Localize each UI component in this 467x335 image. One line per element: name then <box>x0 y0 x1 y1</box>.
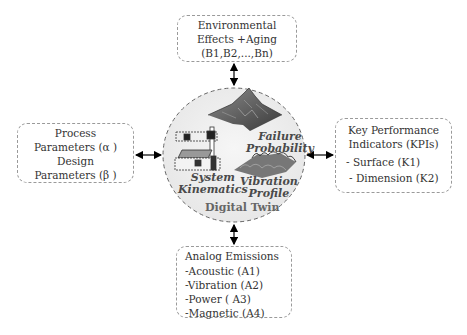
kpi-item: - Dimension (K2) <box>336 171 451 185</box>
box-text: Process <box>18 126 133 140</box>
emission-item: -Power ( A3) <box>185 292 291 306</box>
box-text: Parameters (β ) <box>18 168 133 182</box>
kpi-box: Key Performance Indicators (KPIs) - Surf… <box>335 118 452 193</box>
emission-item: -Acoustic (A1) <box>185 264 291 278</box>
kpi-item: - Surface (K1) <box>336 155 451 169</box>
failure-probability-label: Failure Probability <box>246 131 314 155</box>
box-text: (B1,B2,...,Bn) <box>178 46 296 60</box>
box-text: Parameters (α ) <box>18 140 133 154</box>
environmental-effects-box: Environmental Effects +Aging (B1,B2,...,… <box>177 15 297 62</box>
emission-item: -Vibration (A2) <box>185 278 291 292</box>
system-kinematics-label: System Kinematics <box>178 172 248 196</box>
analog-emissions-box: Analog Emissions -Acoustic (A1) -Vibrati… <box>176 246 292 318</box>
vibration-profile-label: Vibration Profile <box>240 176 298 200</box>
digital-twin-title: Digital Twin <box>205 201 279 214</box>
box-header: Key Performance <box>336 123 451 137</box>
label-line: Probability <box>246 143 314 155</box>
box-text: Effects +Aging <box>178 32 296 46</box>
box-header: Indicators (KPIs) <box>336 137 451 151</box>
box-header: Analog Emissions <box>185 249 291 263</box>
emission-item: -Magnetic (A4) <box>185 306 291 320</box>
process-design-parameters-box: Process Parameters (α ) Design Parameter… <box>17 123 134 183</box>
box-text: Design <box>18 154 133 168</box>
box-text: Environmental <box>178 18 296 32</box>
label-line: Profile <box>240 188 298 200</box>
label-line: Kinematics <box>178 184 248 196</box>
